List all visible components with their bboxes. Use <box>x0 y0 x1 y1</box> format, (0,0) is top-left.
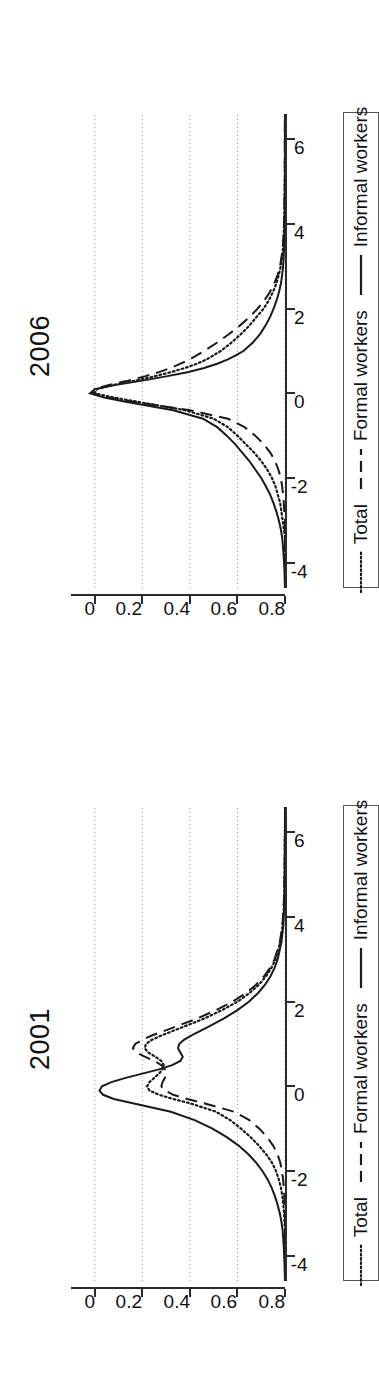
legend-label: Informal workers <box>350 800 372 940</box>
y-tick-label: 0 <box>84 1291 95 1313</box>
x-tick-label: 2 <box>294 999 305 1021</box>
panel-title: 2001 <box>25 719 56 1359</box>
x-tick-label: 2 <box>294 306 305 328</box>
legend-label: Total <box>350 1197 372 1237</box>
y-axis-line <box>71 1287 285 1289</box>
plot-area-2001 <box>71 807 285 1281</box>
x-tick-label: 0 <box>294 391 305 413</box>
y-tick-label: 0.4 <box>163 598 189 620</box>
x-tick-label: -2 <box>291 476 308 498</box>
series-line-informal-workers <box>100 807 285 1281</box>
y-tick-label: 0.4 <box>163 1291 189 1313</box>
legend-item-formal: Formal workers <box>350 1003 372 1183</box>
y-tick-label: 0 <box>84 598 95 620</box>
density-curves <box>71 807 285 1281</box>
legend-key-dotted-icon <box>355 551 367 593</box>
series-line-formal-workers <box>133 807 285 1281</box>
plot-area-2006 <box>71 114 285 588</box>
legend-item-informal: Informal workers <box>350 107 372 296</box>
legend-item-formal: Formal workers <box>350 310 372 490</box>
x-tick-label: 4 <box>294 222 305 244</box>
x-axis-line <box>285 114 287 588</box>
y-tick-label: 0.2 <box>116 1291 142 1313</box>
legend-label: Formal workers <box>350 1003 372 1134</box>
x-tick-label: 6 <box>294 830 305 852</box>
series-line-informal-workers <box>90 114 285 588</box>
series-line-total <box>95 114 285 588</box>
x-tick-label: -4 <box>291 560 308 582</box>
x-tick-label: -2 <box>291 1169 308 1191</box>
series-line-formal-workers <box>92 114 285 588</box>
legend-2001: Total Formal workers Informal workers <box>343 805 379 1281</box>
legend-key-dotted-icon <box>355 1244 367 1286</box>
x-tick-label: 0 <box>294 1084 305 1106</box>
y-axis-line <box>71 594 285 596</box>
legend-label: Total <box>350 504 372 544</box>
y-tick-label: 0.8 <box>259 598 285 620</box>
chart-panel-2001: 2001 0.80.60.40.20 -4-20246 Total <box>0 693 354 1385</box>
x-axis-line <box>285 807 287 1281</box>
legend-2006: Total Formal workers Informal workers <box>343 112 379 588</box>
legend-item-total: Total <box>350 1197 372 1286</box>
x-tick-label: -4 <box>291 1253 308 1275</box>
x-tick-label: 4 <box>294 915 305 937</box>
series-line-total <box>145 807 285 1281</box>
y-tick-label: 0.6 <box>211 598 237 620</box>
y-tick-label: 0.8 <box>259 1291 285 1313</box>
legend-key-solid-icon <box>355 254 367 296</box>
chart-panel-2006: 2006 0.80.60.40.20 -4-20246 Total <box>0 0 354 692</box>
legend-label: Formal workers <box>350 310 372 441</box>
legend-item-informal: Informal workers <box>350 800 372 989</box>
legend-key-dashed-icon <box>355 1141 367 1183</box>
legend-key-solid-icon <box>355 947 367 989</box>
density-curves <box>71 114 285 588</box>
x-tick-label: 6 <box>294 137 305 159</box>
y-tick-label: 0.2 <box>116 598 142 620</box>
legend-label: Informal workers <box>350 107 372 247</box>
panel-title: 2006 <box>25 26 56 666</box>
y-tick-label: 0.6 <box>211 1291 237 1313</box>
legend-item-total: Total <box>350 504 372 593</box>
legend-key-dashed-icon <box>355 448 367 490</box>
